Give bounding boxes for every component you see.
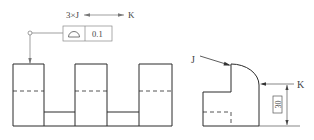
- feature-control-frame: 0.1: [63, 26, 112, 41]
- side-view: J K 30: [191, 54, 305, 126]
- front-view-outline: [13, 64, 172, 126]
- tolerance-value: 0.1: [92, 29, 103, 39]
- side-hidden-line: [203, 112, 231, 126]
- side-view-outline: [203, 64, 259, 126]
- label-J: J: [191, 54, 195, 65]
- basic-dimension: 30: [273, 85, 289, 125]
- label-K: K: [297, 79, 305, 90]
- callout-label-3xJ: 3×J: [66, 10, 80, 20]
- technical-drawing: 3×J K 0.1: [0, 0, 314, 140]
- feature-control-callout: 3×J K 0.1: [28, 10, 135, 64]
- dimension-value: 30: [274, 101, 283, 109]
- front-view: [13, 64, 172, 126]
- callout-label-K: K: [128, 10, 135, 20]
- leader-dot: [28, 31, 32, 35]
- J-arrowhead-icon: [224, 62, 232, 66]
- between-arrow-icon: [84, 13, 124, 16]
- K-arrowhead-icon: [260, 82, 266, 85]
- leader-arrowhead-icon: [28, 58, 31, 64]
